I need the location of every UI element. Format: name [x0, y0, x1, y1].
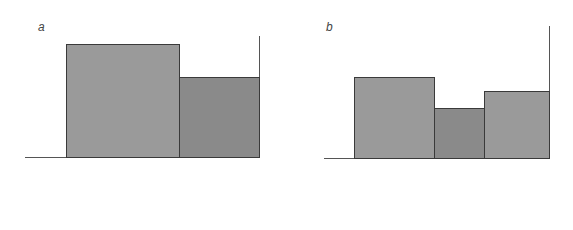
panel-label-b: b: [326, 20, 333, 34]
bar-a-1: [66, 44, 180, 158]
bar-b-2: [434, 108, 485, 159]
bar-b-3: [484, 91, 550, 159]
panel-label-a: a: [38, 20, 45, 34]
bar-a-2: [179, 77, 260, 158]
bar-b-1: [354, 77, 435, 159]
